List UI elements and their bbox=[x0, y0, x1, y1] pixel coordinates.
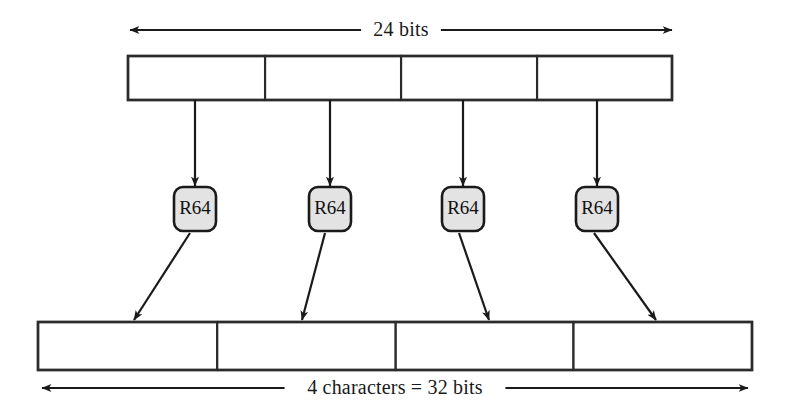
encoder-label-2: R64 bbox=[314, 197, 346, 218]
output-characters-bar bbox=[38, 322, 752, 370]
encoder-label-3: R64 bbox=[447, 197, 479, 218]
bottom-measure-label: 4 characters = 32 bits bbox=[307, 376, 483, 398]
output-cell-3 bbox=[396, 322, 574, 370]
input-arrow-group bbox=[195, 100, 597, 186]
encoding-diagram: 24 bits R64 R64 bbox=[0, 0, 786, 420]
encoder-node-4: R64 bbox=[576, 187, 618, 231]
encoder-node-1: R64 bbox=[174, 187, 216, 231]
bottom-measure-group: 4 characters = 32 bits bbox=[42, 376, 748, 398]
input-cell-1 bbox=[128, 56, 265, 100]
input-bits-bar bbox=[128, 56, 672, 100]
input-cell-4 bbox=[537, 56, 672, 100]
input-cell-3 bbox=[401, 56, 537, 100]
encoder-label-1: R64 bbox=[179, 197, 211, 218]
encoder-label-4: R64 bbox=[581, 197, 613, 218]
encoder-node-2: R64 bbox=[309, 187, 351, 231]
output-arrow-group bbox=[134, 233, 656, 320]
top-measure-label: 24 bits bbox=[373, 18, 428, 40]
output-cell-1 bbox=[38, 322, 217, 370]
top-measure-group: 24 bits bbox=[130, 18, 672, 40]
diagram-canvas: 24 bits R64 R64 bbox=[0, 0, 786, 420]
encoder-group: R64 R64 R64 R64 bbox=[174, 187, 618, 231]
encoder-node-3: R64 bbox=[442, 187, 484, 231]
output-arrow-1 bbox=[134, 233, 190, 320]
output-cell-4 bbox=[574, 322, 753, 370]
output-arrow-2 bbox=[302, 233, 325, 320]
output-arrow-3 bbox=[459, 233, 489, 320]
output-arrow-4 bbox=[594, 233, 656, 320]
input-cell-2 bbox=[265, 56, 401, 100]
output-cell-2 bbox=[217, 322, 395, 370]
